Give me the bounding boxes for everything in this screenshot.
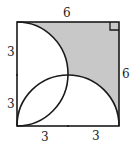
bottom-midpoint-tick <box>67 125 69 127</box>
label-left-upper: 3 <box>7 45 15 59</box>
label-left-lower: 3 <box>7 97 15 111</box>
geometry-diagram: 6 6 3 3 3 3 <box>0 0 133 145</box>
label-right: 6 <box>122 67 130 81</box>
left-midpoint-tick <box>16 74 18 76</box>
label-bottom-left: 3 <box>41 130 49 144</box>
label-bottom-right: 3 <box>92 129 100 143</box>
label-top: 6 <box>63 6 71 20</box>
